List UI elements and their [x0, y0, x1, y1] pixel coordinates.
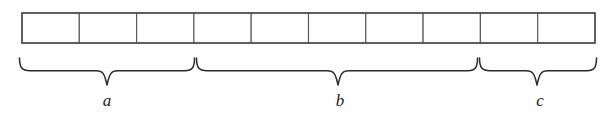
bar-cell-3	[137, 13, 194, 43]
bar-cell-4	[194, 13, 251, 43]
bar-cell-1	[22, 13, 79, 43]
bar-cell-10	[538, 13, 595, 43]
bar-cell-6	[309, 13, 366, 43]
diagram-svg: a b c	[0, 0, 607, 118]
bar-cell-9	[480, 13, 537, 43]
bar-cell-8	[423, 13, 480, 43]
group-label-a: a	[103, 91, 112, 110]
group-label-c: c	[536, 91, 544, 110]
group-label-b: b	[336, 91, 345, 110]
bar-cell-5	[251, 13, 308, 43]
brace-group-b	[197, 58, 478, 85]
brace-group-c	[480, 58, 597, 85]
segmented-bar	[22, 13, 595, 43]
brace-group-a	[20, 58, 195, 85]
bar-cell-2	[79, 13, 136, 43]
bar-cell-7	[366, 13, 423, 43]
diagram-canvas: a b c	[0, 0, 607, 118]
